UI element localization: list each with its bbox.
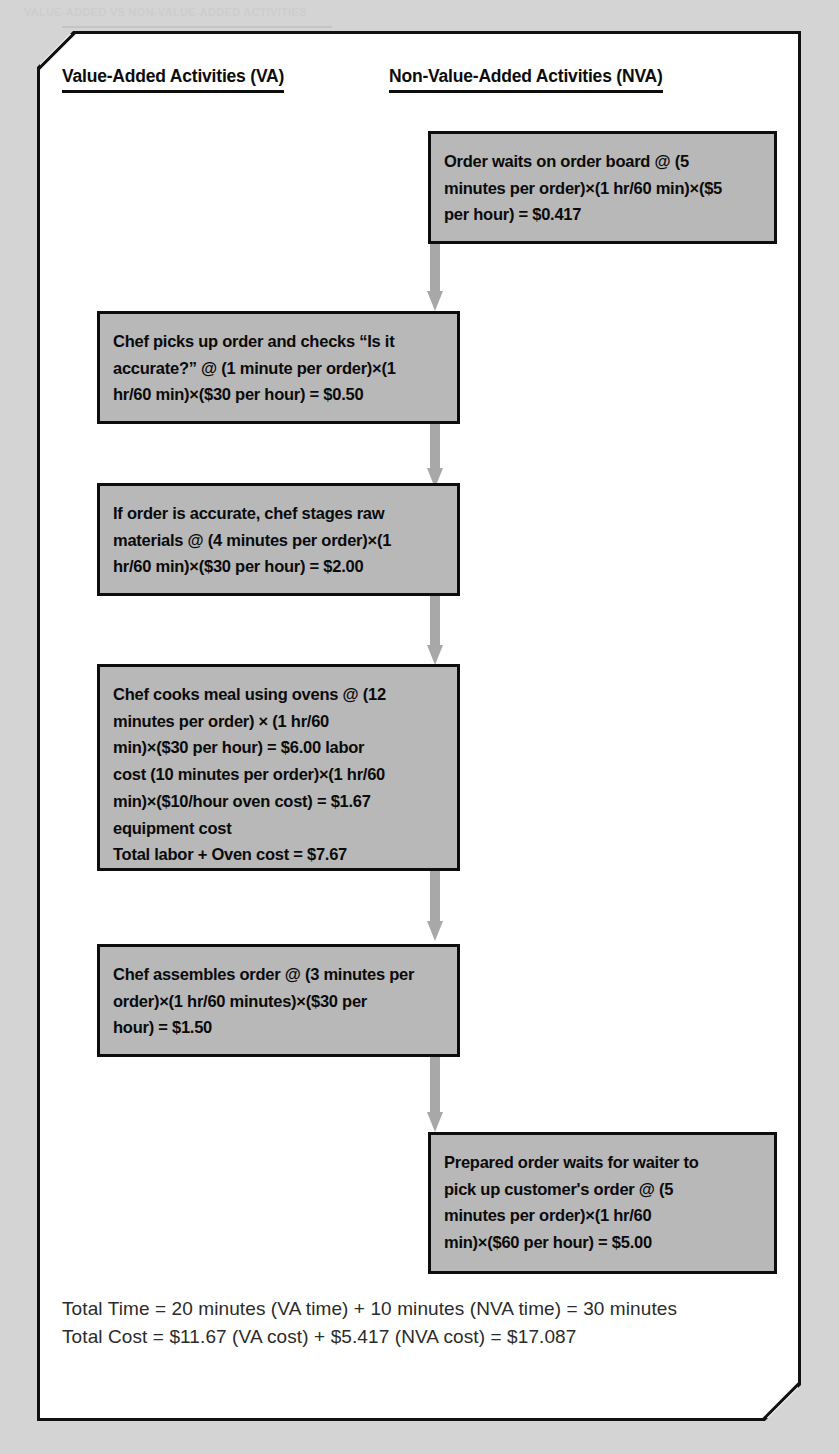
box-line: hour) = $1.50 bbox=[113, 1014, 444, 1041]
arrow-head bbox=[427, 921, 443, 941]
box-line: equipment cost bbox=[113, 815, 444, 842]
arrow-head bbox=[427, 1112, 443, 1132]
arrow-shaft bbox=[430, 596, 440, 645]
column-header-non-value-added: Non-Value-Added Activities (NVA) bbox=[389, 66, 663, 93]
box-line: Chef picks up order and checks “Is it bbox=[113, 328, 444, 355]
connector-arrow-2 bbox=[427, 424, 443, 488]
box-line: Chef cooks meal using ovens @ (12 bbox=[113, 681, 444, 708]
totals-summary: Total Time = 20 minutes (VA time) + 10 m… bbox=[62, 1295, 677, 1350]
process-box-va-stages-raw-materials[interactable]: If order is accurate, chef stages raw ma… bbox=[97, 483, 460, 596]
box-line: hr/60 min)×($30 per hour) = $2.00 bbox=[113, 553, 444, 580]
process-box-nva-order-waits[interactable]: Order waits on order board @ (5 minutes … bbox=[428, 131, 777, 244]
faint-header-text: VALUE-ADDED VS NON-VALUE-ADDED ACTIVITIE… bbox=[24, 6, 307, 18]
arrow-head bbox=[427, 645, 443, 665]
arrow-shaft bbox=[430, 424, 440, 468]
arrow-shaft bbox=[430, 871, 440, 921]
column-header-value-added: Value-Added Activities (VA) bbox=[62, 66, 284, 93]
page-top-strip: VALUE-ADDED VS NON-VALUE-ADDED ACTIVITIE… bbox=[0, 0, 839, 30]
box-line: accurate?” @ (1 minute per order)×(1 bbox=[113, 355, 444, 382]
box-line: If order is accurate, chef stages raw bbox=[113, 500, 444, 527]
box-line: minutes per order)×(1 hr/60 min)×($5 bbox=[444, 175, 761, 202]
process-box-va-cooks-meal[interactable]: Chef cooks meal using ovens @ (12 minute… bbox=[97, 664, 460, 871]
connector-arrow-5 bbox=[427, 1057, 443, 1132]
box-line: pick up customer's order @ (5 bbox=[444, 1176, 761, 1203]
process-box-va-chef-picks-up[interactable]: Chef picks up order and checks “Is it ac… bbox=[97, 311, 460, 424]
box-line: cost (10 minutes per order)×(1 hr/60 bbox=[113, 761, 444, 788]
box-line: minutes per order)×(1 hr/60 bbox=[444, 1202, 761, 1229]
total-time-line: Total Time = 20 minutes (VA time) + 10 m… bbox=[62, 1295, 677, 1323]
arrow-shaft bbox=[430, 1057, 440, 1112]
box-line: per hour) = $0.417 bbox=[444, 201, 761, 228]
box-line: min)×($60 per hour) = $5.00 bbox=[444, 1229, 761, 1256]
box-line: materials @ (4 minutes per order)×(1 bbox=[113, 527, 444, 554]
box-line: order)×(1 hr/60 minutes)×($30 per bbox=[113, 988, 444, 1015]
total-cost-line: Total Cost = $11.67 (VA cost) + $5.417 (… bbox=[62, 1323, 677, 1351]
box-line: Order waits on order board @ (5 bbox=[444, 148, 761, 175]
arrow-head bbox=[427, 291, 443, 311]
process-box-nva-prepared-order-waits[interactable]: Prepared order waits for waiter to pick … bbox=[428, 1132, 777, 1274]
box-line: Chef assembles order @ (3 minutes per bbox=[113, 961, 444, 988]
process-box-va-assembles-order[interactable]: Chef assembles order @ (3 minutes per or… bbox=[97, 944, 460, 1057]
box-line: min)×($30 per hour) = $6.00 labor bbox=[113, 734, 444, 761]
box-line: hr/60 min)×($30 per hour) = $0.50 bbox=[113, 381, 444, 408]
arrow-shaft bbox=[430, 244, 440, 291]
connector-arrow-3 bbox=[427, 596, 443, 665]
box-line: minutes per order) × (1 hr/60 bbox=[113, 708, 444, 735]
box-line: min)×($10/hour oven cost) = $1.67 bbox=[113, 788, 444, 815]
connector-arrow-4 bbox=[427, 871, 443, 941]
box-line: Prepared order waits for waiter to bbox=[444, 1149, 761, 1176]
box-line: Total labor + Oven cost = $7.67 bbox=[113, 841, 444, 868]
faint-header-rule bbox=[62, 26, 332, 28]
connector-arrow-1 bbox=[427, 244, 443, 311]
